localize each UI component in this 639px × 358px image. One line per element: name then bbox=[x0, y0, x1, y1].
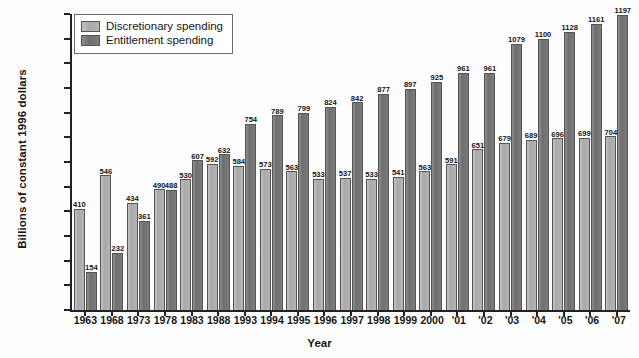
bar-value-label: 679 bbox=[498, 135, 511, 143]
bar: 925 bbox=[431, 82, 442, 310]
bar: 546 bbox=[100, 175, 111, 310]
bar-group: 6961128 bbox=[550, 14, 577, 310]
bar: 573 bbox=[260, 169, 271, 310]
bar-value-label: 1100 bbox=[535, 31, 551, 39]
bar: 799 bbox=[298, 113, 309, 310]
y-tick bbox=[64, 38, 70, 40]
y-tick bbox=[64, 186, 70, 188]
bar-value-label: 696 bbox=[551, 131, 564, 139]
x-tick-label: '03 bbox=[499, 314, 526, 326]
x-tick-label: '04 bbox=[525, 314, 552, 326]
bar-group: 537842 bbox=[338, 14, 365, 310]
bar-value-label: 842 bbox=[351, 95, 364, 103]
bar: 1161 bbox=[591, 24, 602, 310]
bar-value-label: 434 bbox=[126, 195, 139, 203]
bar: 1197 bbox=[617, 15, 628, 310]
x-tick-label: '06 bbox=[579, 314, 606, 326]
bar-group: 7041197 bbox=[604, 14, 631, 310]
legend-swatch-discretionary-icon bbox=[81, 21, 100, 32]
bar-group: 592632 bbox=[205, 14, 232, 310]
x-tick-label: '01 bbox=[445, 314, 472, 326]
bar: 632 bbox=[219, 154, 230, 310]
bar: 961 bbox=[484, 73, 495, 310]
y-tick bbox=[64, 284, 70, 286]
bar: 824 bbox=[325, 107, 336, 310]
chart-legend: Discretionary spending Entitlement spend… bbox=[74, 14, 233, 54]
bar-group: 546232 bbox=[99, 14, 126, 310]
bar-value-label: 488 bbox=[165, 182, 178, 190]
y-tick bbox=[64, 260, 70, 262]
bar-group: 591961 bbox=[444, 14, 471, 310]
bar-group: 533877 bbox=[364, 14, 391, 310]
bar-value-label: 961 bbox=[457, 65, 470, 73]
x-tick-label: '05 bbox=[552, 314, 579, 326]
bar-value-label: 699 bbox=[578, 130, 591, 138]
bar-value-label: 530 bbox=[179, 172, 192, 180]
bar-group: 541897 bbox=[391, 14, 418, 310]
bar-chart: Billions of constant 1996 dollars 120011… bbox=[0, 0, 639, 358]
bar: 1100 bbox=[538, 39, 549, 310]
bar: 563 bbox=[419, 171, 430, 310]
y-tick bbox=[64, 210, 70, 212]
x-tick-label: '07 bbox=[605, 314, 632, 326]
bar-value-label: 541 bbox=[392, 169, 405, 177]
legend-label-entitlement: Entitlement spending bbox=[106, 34, 213, 47]
bar: 789 bbox=[272, 115, 283, 310]
bar: 232 bbox=[112, 253, 123, 310]
bar: 877 bbox=[378, 94, 389, 310]
bar-value-label: 154 bbox=[85, 264, 98, 272]
bar-group: 434361 bbox=[125, 14, 152, 310]
bar-value-label: 607 bbox=[191, 153, 204, 161]
bar-value-label: 651 bbox=[472, 142, 485, 150]
y-tick bbox=[64, 136, 70, 138]
bar: 530 bbox=[180, 179, 191, 310]
bar: 563 bbox=[286, 171, 297, 310]
bar: 591 bbox=[446, 164, 457, 310]
x-tick-label: '02 bbox=[472, 314, 499, 326]
bar: 651 bbox=[472, 149, 483, 310]
x-tick-label: 1995 bbox=[285, 314, 312, 326]
bar-group: 563799 bbox=[285, 14, 312, 310]
y-tick bbox=[64, 87, 70, 89]
legend-swatch-entitlement-icon bbox=[81, 35, 100, 46]
x-tick-label: 1963 bbox=[72, 314, 99, 326]
bar-groups: 4101545462324343614904885306075926325847… bbox=[72, 14, 630, 310]
bar: 1079 bbox=[511, 44, 522, 310]
bar: 607 bbox=[192, 160, 203, 310]
bar-value-label: 563 bbox=[286, 164, 299, 172]
bar: 361 bbox=[139, 221, 150, 310]
bar-value-label: 1161 bbox=[588, 16, 604, 24]
bar-value-label: 410 bbox=[73, 201, 86, 209]
bar: 961 bbox=[458, 73, 469, 310]
bar-value-label: 1079 bbox=[508, 36, 525, 44]
x-tick-label: 1988 bbox=[205, 314, 232, 326]
y-tick bbox=[64, 309, 70, 311]
bar-value-label: 533 bbox=[365, 171, 378, 179]
bar-value-label: 563 bbox=[418, 164, 431, 172]
bar: 537 bbox=[340, 178, 351, 310]
x-tick-label: 1968 bbox=[99, 314, 126, 326]
y-tick bbox=[64, 13, 70, 15]
bar-group: 651961 bbox=[471, 14, 498, 310]
bar: 490 bbox=[154, 189, 165, 310]
bar-value-label: 799 bbox=[298, 105, 311, 113]
x-axis-labels: 1963196819731978198319881993199419951996… bbox=[72, 314, 632, 326]
bar-value-label: 689 bbox=[525, 132, 538, 140]
bar-value-label: 1197 bbox=[615, 7, 631, 15]
bar: 754 bbox=[245, 124, 256, 310]
bar-value-label: 754 bbox=[244, 116, 257, 124]
bar-value-label: 704 bbox=[605, 129, 618, 137]
legend-item-entitlement: Entitlement spending bbox=[81, 34, 223, 47]
x-tick-label: 1998 bbox=[365, 314, 392, 326]
bar: 533 bbox=[313, 179, 324, 310]
bar-value-label: 789 bbox=[271, 108, 284, 116]
x-tick-label: 1993 bbox=[232, 314, 259, 326]
bar-value-label: 573 bbox=[259, 161, 272, 169]
y-tick bbox=[64, 161, 70, 163]
bar-value-label: 584 bbox=[232, 158, 245, 166]
bar: 696 bbox=[552, 138, 563, 310]
plot-area: 1200110010009008007006005004003002001000… bbox=[70, 14, 630, 310]
bar-value-label: 925 bbox=[430, 74, 443, 82]
x-tick-label: 1994 bbox=[259, 314, 286, 326]
bar-value-label: 632 bbox=[218, 147, 231, 155]
